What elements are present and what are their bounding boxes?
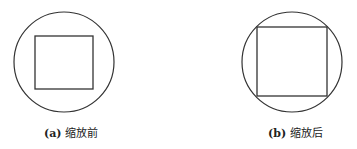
outer-circle-a (14, 12, 114, 112)
figure-b (242, 12, 342, 112)
caption-a: (a) 缩放前 (44, 124, 98, 140)
caption-a-tag: (a) (44, 127, 62, 140)
inner-square-a (35, 36, 93, 89)
inscribed-square-b (257, 27, 327, 96)
caption-b-tag: (b) (268, 127, 286, 140)
caption-a-text: 缩放前 (65, 127, 98, 140)
caption-b-text: 缩放后 (290, 127, 323, 140)
caption-b: (b) 缩放后 (268, 124, 323, 140)
figure-a (14, 12, 114, 112)
